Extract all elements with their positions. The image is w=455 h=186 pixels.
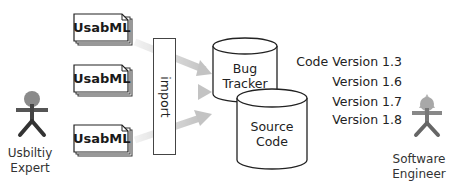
version-1-7: Version 1.7	[291, 94, 402, 109]
usability-expert-actor-icon	[12, 90, 52, 140]
usabml-document: UsabML	[73, 64, 133, 96]
usabml-document: UsabML	[73, 124, 133, 156]
version-1-8: Version 1.8	[291, 112, 402, 127]
usabml-label: UsabML	[73, 20, 129, 35]
version-1-6: Version 1.6	[291, 74, 402, 89]
bug-tracker-label: Bug Tracker	[213, 61, 277, 91]
import-label: import	[157, 76, 172, 117]
usabml-label: UsabML	[73, 71, 129, 86]
import-process-box: import	[153, 38, 176, 155]
version-1-3: Code Version 1.3	[291, 54, 402, 69]
usability-expert-label: Usbiltiy Expert	[0, 146, 60, 176]
usabml-label: UsabML	[73, 131, 129, 146]
software-engineer-label: Software Engineer	[384, 152, 454, 182]
usabml-document: UsabML	[73, 13, 133, 45]
software-engineer-actor-icon	[404, 92, 450, 144]
